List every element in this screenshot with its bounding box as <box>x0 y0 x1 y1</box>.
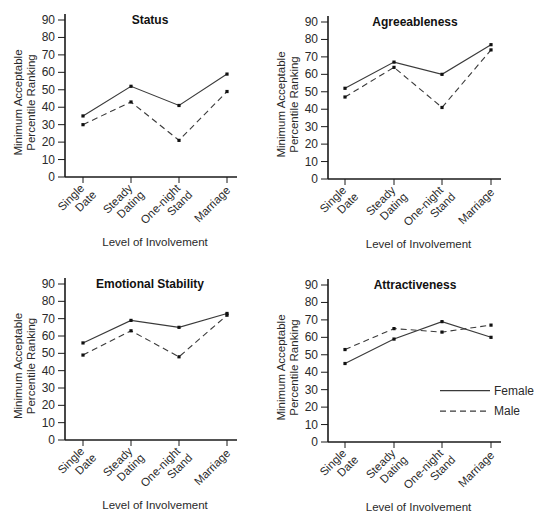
y-tick-label: 0 <box>311 172 318 186</box>
figure-canvas: 0102030405060708090SingleDateSteadyDatin… <box>0 0 539 528</box>
series-line-male <box>83 315 227 357</box>
y-tick-label: 70 <box>305 50 319 64</box>
y-tick-label: 30 <box>305 383 319 397</box>
x-category-label: SingleDate <box>55 442 98 485</box>
y-tick-label: 10 <box>42 153 56 167</box>
y-tick-label: 30 <box>42 381 56 395</box>
series-line-female <box>83 313 227 342</box>
y-axis-label: Minimum AcceptablePercentile Ranking <box>275 314 300 420</box>
y-tick-label: 50 <box>305 85 319 99</box>
y-tick-label: 60 <box>42 329 56 343</box>
x-category-label: SingleDate <box>317 181 360 224</box>
data-point-marker <box>81 123 84 126</box>
data-point-marker <box>129 100 132 103</box>
chart-panel-status: 0102030405060708090SingleDateSteadyDatin… <box>12 13 237 248</box>
x-category-label: One-nightStand <box>138 179 194 235</box>
y-tick-label: 30 <box>42 118 56 132</box>
chart-panel-emotional-stability: 0102030405060708090SingleDateSteadyDatin… <box>12 277 237 511</box>
data-point-marker <box>225 90 228 93</box>
y-tick-label: 50 <box>305 348 319 362</box>
data-point-marker <box>177 355 180 358</box>
x-axis-label: Level of Involvement <box>102 236 208 248</box>
y-tick-label: 30 <box>305 120 319 134</box>
y-tick-label: 80 <box>305 32 319 46</box>
data-point-marker <box>392 61 395 64</box>
series-line-female <box>345 45 491 89</box>
y-tick-label: 80 <box>42 294 56 308</box>
y-tick-label: 60 <box>305 67 319 81</box>
legend-label-female: Female <box>494 384 534 398</box>
y-axis-label: Minimum AcceptablePercentile Ranking <box>12 313 37 419</box>
chart-panel-attractiveness: 0102030405060708090SingleDateSteadyDatin… <box>275 278 534 513</box>
y-tick-label: 50 <box>42 346 56 360</box>
data-point-marker <box>489 324 492 327</box>
x-axis-label: Level of Involvement <box>366 501 472 513</box>
legend: FemaleMale <box>440 384 534 419</box>
data-point-marker <box>177 139 180 142</box>
series-line-female <box>345 322 491 364</box>
data-point-marker <box>440 320 443 323</box>
data-point-marker <box>225 72 228 75</box>
x-axis-label: Level of Involvement <box>366 238 472 250</box>
chart-title: Attractiveness <box>374 278 457 292</box>
data-point-marker <box>489 43 492 46</box>
x-category-label: Marriage <box>192 447 233 488</box>
data-point-marker <box>440 331 443 334</box>
data-point-marker <box>392 66 395 69</box>
y-tick-label: 70 <box>42 48 56 62</box>
y-tick-label: 60 <box>305 330 319 344</box>
data-point-marker <box>81 353 84 356</box>
y-tick-label: 90 <box>42 13 56 27</box>
y-tick-label: 10 <box>305 155 319 169</box>
chart-title: Emotional Stability <box>96 277 204 291</box>
series-line-male <box>83 92 227 141</box>
y-tick-label: 80 <box>305 295 319 309</box>
data-point-marker <box>129 85 132 88</box>
y-tick-label: 90 <box>305 278 319 292</box>
data-point-marker <box>392 327 395 330</box>
data-point-marker <box>343 362 346 365</box>
y-tick-label: 0 <box>48 433 55 447</box>
chart-panel-agreeableness: 0102030405060708090SingleDateSteadyDatin… <box>275 15 501 250</box>
x-category-label: One-nightStand <box>401 181 457 237</box>
y-tick-label: 0 <box>48 170 55 184</box>
y-tick-label: 20 <box>305 137 319 151</box>
data-point-marker <box>489 48 492 51</box>
y-tick-label: 40 <box>42 364 56 378</box>
x-category-label: Marriage <box>456 186 497 227</box>
legend-label-male: Male <box>494 404 520 418</box>
data-point-marker <box>392 337 395 340</box>
y-tick-label: 10 <box>305 418 319 432</box>
data-point-marker <box>343 95 346 98</box>
data-point-marker <box>129 319 132 322</box>
chart-title: Agreeableness <box>372 15 458 29</box>
x-category-label: Marriage <box>456 449 497 490</box>
y-tick-label: 80 <box>42 30 56 44</box>
data-point-marker <box>177 326 180 329</box>
x-category-label: SingleDate <box>317 444 360 487</box>
x-category-label: One-nightStand <box>138 442 194 498</box>
series-line-female <box>83 74 227 116</box>
y-tick-label: 50 <box>42 83 56 97</box>
y-tick-label: 40 <box>42 100 56 114</box>
data-point-marker <box>81 341 84 344</box>
data-point-marker <box>440 73 443 76</box>
y-tick-label: 40 <box>305 365 319 379</box>
y-tick-label: 60 <box>42 65 56 79</box>
y-tick-label: 20 <box>42 398 56 412</box>
data-point-marker <box>177 104 180 107</box>
y-tick-label: 90 <box>42 277 56 291</box>
y-tick-label: 90 <box>305 15 319 29</box>
y-tick-label: 70 <box>42 312 56 326</box>
y-axis-label: Minimum AcceptablePercentile Ranking <box>275 51 300 157</box>
y-axis-label: Minimum AcceptablePercentile Ranking <box>12 49 37 155</box>
series-line-male <box>345 325 491 349</box>
data-point-marker <box>129 329 132 332</box>
data-point-marker <box>225 314 228 317</box>
x-axis-label: Level of Involvement <box>102 499 208 511</box>
x-category-label: SingleDate <box>55 179 98 222</box>
data-point-marker <box>343 87 346 90</box>
data-point-marker <box>343 348 346 351</box>
x-category-label: One-nightStand <box>401 444 457 500</box>
y-tick-label: 40 <box>305 102 319 116</box>
